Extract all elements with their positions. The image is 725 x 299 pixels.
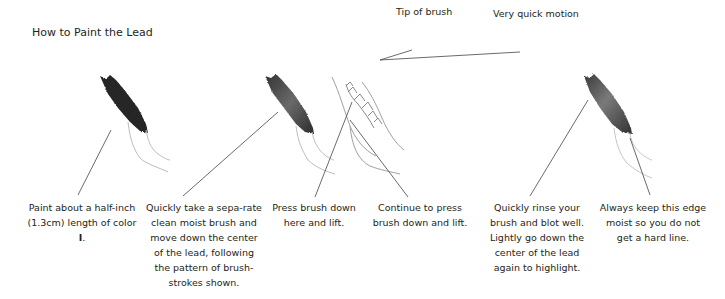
- illustration-layer: [0, 0, 725, 299]
- leader-line-5: [530, 100, 588, 196]
- leader-line-6: [630, 138, 650, 195]
- lead-stroke-1: [100, 75, 170, 172]
- caption-step-2: Quickly take a sepa-rate clean moist bru…: [145, 200, 263, 290]
- caption-step-6: Always keep this edge moist so you do no…: [598, 200, 708, 245]
- leader-line-1: [78, 130, 111, 195]
- lead-stroke-2: [265, 74, 335, 174]
- caption-step-5: Quickly rinse your brush and blot well. …: [487, 200, 587, 275]
- leader-line-2: [183, 112, 278, 196]
- leader-lines: [78, 50, 650, 197]
- leader-line-3: [315, 102, 352, 197]
- caption-step-1: Paint about a half-inch (1.3cm) length o…: [26, 200, 138, 245]
- leader-line-4: [350, 120, 408, 197]
- lead-stroke-5: [584, 74, 652, 178]
- caption-step-4: Continue to press brush down and lift.: [370, 200, 470, 230]
- caption-step-3: Press brush down here and lift.: [266, 200, 362, 230]
